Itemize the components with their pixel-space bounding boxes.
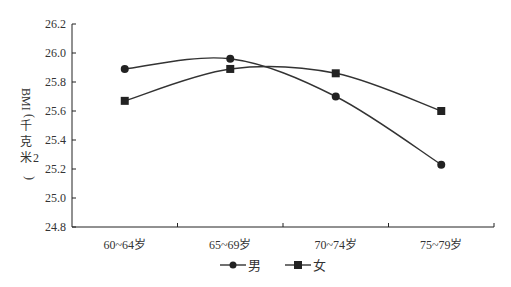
y-tick-label: 24.8 xyxy=(45,220,66,234)
legend-item-female: 女 xyxy=(285,258,326,273)
circle-marker xyxy=(332,93,340,101)
series-line xyxy=(125,58,442,165)
x-category-label: 65~69岁 xyxy=(209,237,252,252)
svg-text:): ) xyxy=(23,176,37,180)
circle-marker xyxy=(226,55,234,63)
svg-text:(: ( xyxy=(23,114,37,118)
bmi-line-chart: BMI(千克米2) 24.825.025.225.425.625.826.026… xyxy=(0,0,511,287)
svg-text:2: 2 xyxy=(33,151,39,165)
y-axis-title-bmi: BMI xyxy=(19,88,33,111)
legend-label: 男 xyxy=(248,258,261,273)
series-male xyxy=(121,55,446,169)
y-axis-ticks: 24.825.025.225.425.625.826.026.2 xyxy=(45,17,76,234)
y-tick-label: 25.6 xyxy=(45,104,66,118)
y-tick-label: 25.4 xyxy=(45,133,66,147)
square-marker xyxy=(226,65,234,73)
y-tick-label: 25.0 xyxy=(45,191,66,205)
legend-circle-icon xyxy=(230,262,237,269)
axes xyxy=(72,24,494,227)
svg-text:克: 克 xyxy=(20,135,32,149)
legend-square-icon xyxy=(294,261,302,269)
y-tick-label: 25.8 xyxy=(45,75,66,89)
x-category-label: 60~64岁 xyxy=(104,237,147,252)
x-category-label: 70~74岁 xyxy=(315,237,358,252)
circle-marker xyxy=(437,161,445,169)
svg-text:千: 千 xyxy=(20,119,32,133)
y-tick-label: 25.2 xyxy=(45,162,66,176)
y-axis-label: BMI(千克米2) xyxy=(19,88,39,180)
x-category-label: 75~79岁 xyxy=(420,237,463,252)
series-lines xyxy=(121,55,446,169)
svg-text:米: 米 xyxy=(20,151,32,165)
square-marker xyxy=(332,69,340,77)
legend-item-male: 男 xyxy=(220,258,261,273)
y-axis-title: BMI(千克米2) xyxy=(19,88,39,180)
legend-label: 女 xyxy=(313,258,326,273)
y-tick-label: 26.2 xyxy=(45,17,66,31)
square-marker xyxy=(437,107,445,115)
square-marker xyxy=(121,97,129,105)
y-tick-label: 26.0 xyxy=(45,46,66,60)
legend: 男女 xyxy=(220,258,326,273)
circle-marker xyxy=(121,65,129,73)
